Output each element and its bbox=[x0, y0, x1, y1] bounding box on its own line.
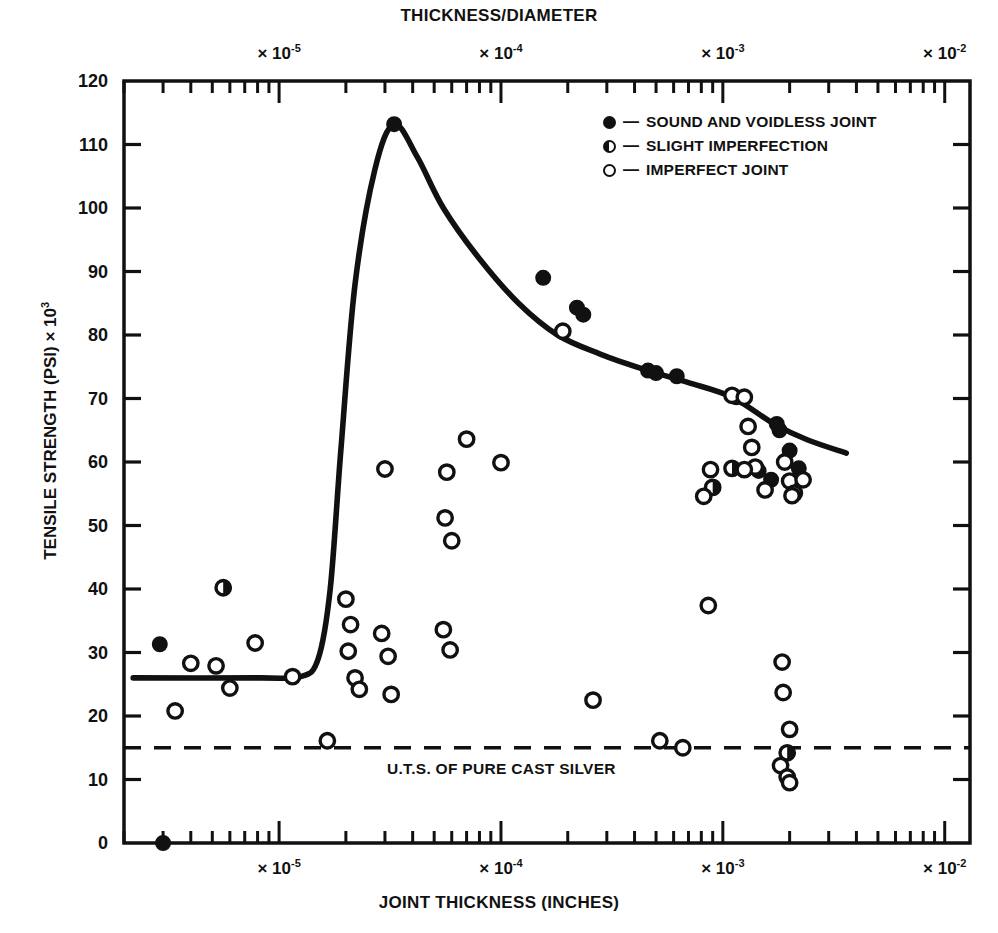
x-decade-mantissa: × 10 bbox=[701, 859, 735, 878]
x-decade-mantissa: × 10 bbox=[923, 859, 957, 878]
data-points bbox=[153, 117, 811, 850]
x-decade-label: × 10-5 bbox=[257, 857, 300, 879]
legend-dash: — bbox=[620, 161, 642, 179]
x-decade-exponent: -5 bbox=[291, 42, 301, 54]
legend-label: IMPERFECT JOINT bbox=[646, 161, 789, 179]
marker-glyph bbox=[603, 116, 616, 129]
legend-item: —SLIGHT IMPERFECTION bbox=[598, 134, 877, 158]
y-tick-label: 90 bbox=[48, 261, 108, 282]
marker-glyph bbox=[603, 164, 616, 177]
y-tick-label: 70 bbox=[48, 388, 108, 409]
legend: —SOUND AND VOIDLESS JOINT—SLIGHT IMPERFE… bbox=[598, 110, 877, 182]
x-decade-exponent: -4 bbox=[513, 857, 523, 869]
x-decade-label: × 10-2 bbox=[923, 42, 966, 64]
y-tick-label: 80 bbox=[48, 325, 108, 346]
legend-marker-half-icon bbox=[598, 140, 620, 153]
x-decade-label: × 10-5 bbox=[257, 42, 300, 64]
y-tick-label: 20 bbox=[48, 706, 108, 727]
x-decade-mantissa: × 10 bbox=[923, 44, 957, 63]
x-decade-label: × 10-4 bbox=[479, 42, 522, 64]
legend-label: SLIGHT IMPERFECTION bbox=[646, 137, 828, 155]
x-decade-label: × 10-2 bbox=[923, 857, 966, 879]
reference-line-label: U.T.S. OF PURE CAST SILVER bbox=[387, 760, 616, 778]
top-axis-ticks bbox=[124, 81, 945, 103]
x-decade-mantissa: × 10 bbox=[701, 44, 735, 63]
legend-marker-full-icon bbox=[598, 116, 620, 129]
legend-marker-open-icon bbox=[598, 164, 620, 177]
y-tick-label: 110 bbox=[48, 134, 108, 155]
legend-dash: — bbox=[620, 137, 642, 155]
y-tick-label: 100 bbox=[48, 198, 108, 219]
x-decade-mantissa: × 10 bbox=[479, 859, 513, 878]
x-decade-exponent: -5 bbox=[291, 857, 301, 869]
legend-item: —IMPERFECT JOINT bbox=[598, 158, 877, 182]
plot-frame bbox=[124, 81, 970, 843]
marker-glyph bbox=[603, 140, 616, 153]
x-decade-exponent: -4 bbox=[513, 42, 523, 54]
x-decade-mantissa: × 10 bbox=[257, 44, 291, 63]
x-decade-mantissa: × 10 bbox=[257, 859, 291, 878]
bottom-axis-ticks bbox=[124, 821, 945, 843]
y-tick-label: 120 bbox=[48, 71, 108, 92]
x-decade-exponent: -3 bbox=[735, 857, 745, 869]
legend-dash: — bbox=[620, 113, 642, 131]
y-tick-label: 30 bbox=[48, 642, 108, 663]
legend-label: SOUND AND VOIDLESS JOINT bbox=[646, 113, 877, 131]
y-tick-label: 0 bbox=[48, 833, 108, 854]
chart-canvas: THICKNESS/DIAMETER TENSILE STRENGTH (PSI… bbox=[0, 0, 998, 933]
x-decade-exponent: -2 bbox=[957, 42, 967, 54]
x-decade-exponent: -3 bbox=[735, 42, 745, 54]
y-tick-label: 40 bbox=[48, 579, 108, 600]
x-decade-label: × 10-4 bbox=[479, 857, 522, 879]
y-tick-label: 50 bbox=[48, 515, 108, 536]
y-tick-label: 60 bbox=[48, 452, 108, 473]
x-decade-exponent: -2 bbox=[957, 857, 967, 869]
y-axis-ticks bbox=[124, 145, 970, 780]
x-decade-label: × 10-3 bbox=[701, 857, 744, 879]
legend-item: —SOUND AND VOIDLESS JOINT bbox=[598, 110, 877, 134]
y-tick-label: 10 bbox=[48, 769, 108, 790]
x-decade-mantissa: × 10 bbox=[479, 44, 513, 63]
x-decade-label: × 10-3 bbox=[701, 42, 744, 64]
